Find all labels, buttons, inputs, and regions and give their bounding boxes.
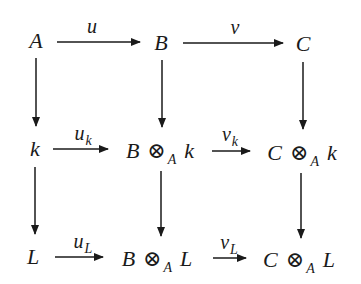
node-C-tensor-L: C⊗AL <box>263 249 335 271</box>
node-B: B <box>154 32 167 54</box>
tensor-left: C <box>263 247 278 272</box>
label-v-k-text: v <box>222 123 231 145</box>
node-B-symbol: B <box>154 30 167 55</box>
tensor-operator: ⊗ <box>143 246 161 271</box>
tensor-operator: ⊗ <box>286 247 304 272</box>
label-u-L-text: u <box>74 230 84 252</box>
node-C-symbol: C <box>296 31 311 56</box>
tensor-left: C <box>267 140 282 165</box>
tensor-right: L <box>323 247 335 272</box>
commutative-diagram: A B C k B⊗Ak C⊗Ak L B⊗AL C⊗AL u v uk vk … <box>0 0 361 284</box>
label-v-text: v <box>231 16 240 38</box>
node-k: k <box>30 138 40 160</box>
tensor-subscript: A <box>306 261 315 276</box>
label-v-L: vL <box>220 232 238 252</box>
label-u-text: u <box>87 15 97 37</box>
node-B-tensor-L: B⊗AL <box>122 248 193 270</box>
tensor-left: B <box>126 138 139 163</box>
node-C-tensor-k: C⊗Ak <box>267 142 336 164</box>
tensor-right: k <box>327 140 337 165</box>
tensor-left: B <box>122 246 135 271</box>
node-A-symbol: A <box>29 28 42 53</box>
node-k-symbol: k <box>30 136 40 161</box>
label-u-L: uL <box>74 231 93 251</box>
tensor-operator: ⊗ <box>147 138 165 163</box>
tensor-right: L <box>180 246 192 271</box>
node-C: C <box>296 33 311 55</box>
tensor-operator: ⊗ <box>290 140 308 165</box>
node-A: A <box>29 30 42 52</box>
label-v-L-text: v <box>220 231 229 253</box>
label-u-k-subscript: k <box>85 133 91 148</box>
label-u-k-text: u <box>74 122 84 144</box>
label-v-k-subscript: k <box>232 134 238 149</box>
label-u-k: uk <box>74 123 91 143</box>
label-u-L-subscript: L <box>85 241 93 256</box>
node-L: L <box>27 246 39 268</box>
tensor-subscript: A <box>164 260 173 275</box>
label-v-k: vk <box>222 124 238 144</box>
tensor-subscript: A <box>310 154 319 169</box>
node-B-tensor-k: B⊗Ak <box>126 140 194 162</box>
label-v-L-subscript: L <box>230 242 238 257</box>
label-u: u <box>87 16 97 36</box>
node-L-symbol: L <box>27 244 39 269</box>
tensor-right: k <box>184 138 194 163</box>
label-v: v <box>231 17 240 37</box>
tensor-subscript: A <box>168 152 177 167</box>
